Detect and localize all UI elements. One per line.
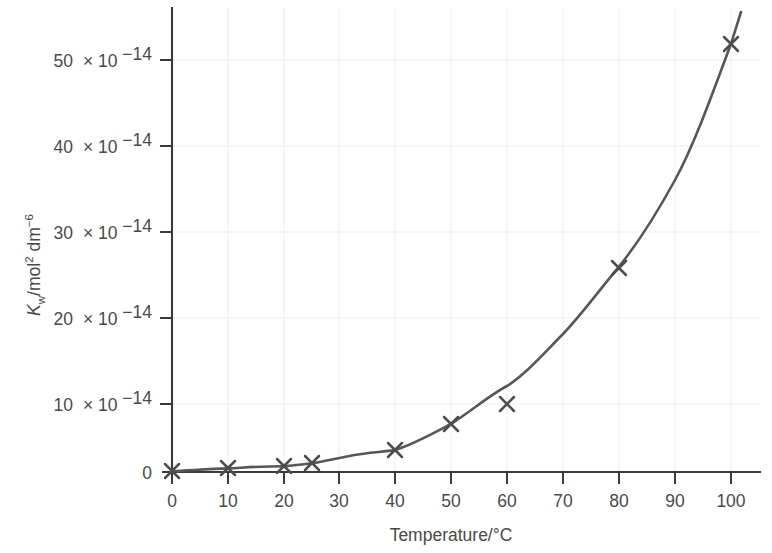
x-tick-label-40: 40: [385, 491, 405, 511]
x-tick-label-100: 100: [716, 491, 745, 511]
x-tick-label-60: 60: [497, 491, 517, 511]
x-tick-label-10: 10: [218, 491, 238, 511]
x-axis-title: Temperature/°C: [390, 525, 513, 545]
chart-background: [0, 0, 772, 553]
x-tick-label-70: 70: [553, 491, 573, 511]
x-tick-label-20: 20: [274, 491, 294, 511]
kw-temperature-chart: 0 10 × 10 −14 20 × 10 −14 30 × 10 −14 40…: [0, 0, 772, 553]
x-tick-label-90: 90: [665, 491, 685, 511]
chart-svg: 0 10 × 10 −14 20 × 10 −14 30 × 10 −14 40…: [0, 0, 772, 553]
x-tick-label-50: 50: [441, 491, 461, 511]
x-tick-label-30: 30: [329, 491, 349, 511]
y-tick-label-0: 0: [142, 463, 152, 483]
x-tick-label-0: 0: [167, 491, 177, 511]
x-tick-label-80: 80: [609, 491, 629, 511]
